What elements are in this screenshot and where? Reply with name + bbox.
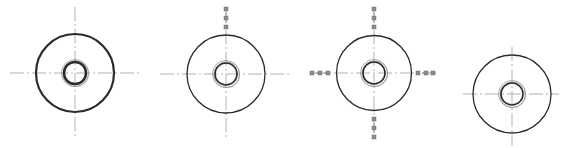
grip-handle-right[interactable]	[416, 71, 420, 75]
washer-drawings	[0, 0, 565, 148]
grip-handle-bottom[interactable]	[372, 135, 376, 139]
grip-handle-bottom[interactable]	[372, 117, 376, 121]
figure-4[interactable]	[463, 47, 559, 146]
grip-handle-top[interactable]	[224, 7, 228, 11]
grip-handle-left[interactable]	[318, 71, 322, 75]
grip-handle-top[interactable]	[372, 7, 376, 11]
grip-handle-top[interactable]	[372, 16, 376, 20]
grip-handle-right[interactable]	[431, 71, 435, 75]
grip-handle-top[interactable]	[224, 16, 228, 20]
figure-2[interactable]	[160, 7, 290, 140]
grip-handle-top[interactable]	[224, 25, 228, 29]
cad-drawing-canvas[interactable]	[0, 0, 565, 148]
grip-handle-top[interactable]	[372, 25, 376, 29]
grip-handle-left[interactable]	[310, 71, 314, 75]
grip-handle-left[interactable]	[326, 71, 330, 75]
figure-1[interactable]	[10, 7, 140, 138]
grip-handle-right[interactable]	[424, 71, 428, 75]
figure-3[interactable]	[310, 7, 436, 139]
grip-handle-bottom[interactable]	[372, 126, 376, 130]
